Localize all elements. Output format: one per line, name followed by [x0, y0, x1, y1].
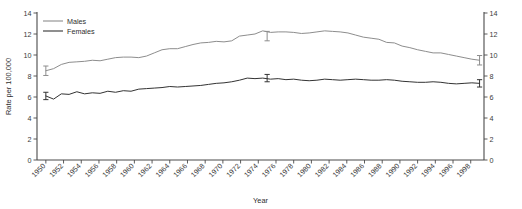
y-tick-label-right: 12 — [490, 30, 498, 39]
x-tick-label: 1954 — [65, 162, 83, 180]
y-tick-label-right: 10 — [490, 51, 498, 60]
x-tick-label: 1964 — [154, 162, 172, 180]
y-tick-label-left: 6 — [28, 93, 32, 102]
y-tick-label-left: 8 — [28, 72, 32, 81]
x-tick-label: 1982 — [313, 162, 331, 180]
x-tick-label: 1960 — [118, 162, 136, 180]
line-chart: 0022446688101012121414195019521954195619… — [0, 0, 522, 209]
x-tick-label: 1958 — [100, 162, 118, 180]
error-bar-females — [43, 92, 48, 99]
x-tick-label: 1990 — [384, 162, 402, 180]
y-tick-label-left: 2 — [28, 135, 32, 144]
x-tick-label: 1956 — [83, 162, 101, 180]
y-tick-label-right: 6 — [490, 93, 494, 102]
y-tick-label-right: 2 — [490, 135, 494, 144]
x-tick-label: 1952 — [47, 162, 65, 180]
x-tick-label: 1962 — [136, 162, 154, 180]
x-tick-label: 1996 — [437, 162, 455, 180]
x-tick-label: 1980 — [295, 162, 313, 180]
y-tick-label-right: 4 — [490, 114, 494, 123]
y-tick-label-left: 12 — [24, 30, 32, 39]
x-tick-label: 1984 — [331, 162, 349, 180]
x-tick-label: 1994 — [419, 162, 437, 180]
x-tick-label: 1972 — [224, 162, 242, 180]
x-tick-label: 1974 — [242, 162, 260, 180]
x-tick-label: 1978 — [277, 162, 295, 180]
x-tick-label: 1968 — [189, 162, 207, 180]
y-tick-label-right: 14 — [490, 9, 498, 18]
y-tick-label-left: 4 — [28, 114, 32, 123]
y-tick-label-right: 0 — [490, 156, 494, 165]
x-tick-label: 1992 — [401, 162, 419, 180]
x-tick-label: 1950 — [30, 162, 48, 180]
y-tick-label-right: 8 — [490, 72, 494, 81]
y-axis-title: Rate per 100,000 — [4, 58, 13, 115]
legend-label-females: Females — [67, 27, 95, 36]
y-tick-label-left: 10 — [24, 51, 32, 60]
x-tick-label: 1998 — [454, 162, 472, 180]
x-tick-label: 1988 — [366, 162, 384, 180]
x-tick-label: 1970 — [207, 162, 225, 180]
series-line-males — [46, 31, 480, 71]
series-line-females — [46, 78, 480, 99]
chart-container: 0022446688101012121414195019521954195619… — [0, 0, 522, 209]
legend-label-males: Males — [67, 17, 87, 26]
x-tick-label: 1986 — [348, 162, 366, 180]
x-tick-label: 1976 — [260, 162, 278, 180]
error-bar-males — [265, 31, 270, 40]
y-tick-label-left: 0 — [28, 156, 32, 165]
x-axis-title: Year — [253, 196, 268, 205]
y-tick-label-left: 14 — [24, 9, 32, 18]
x-tick-label: 1966 — [171, 162, 189, 180]
